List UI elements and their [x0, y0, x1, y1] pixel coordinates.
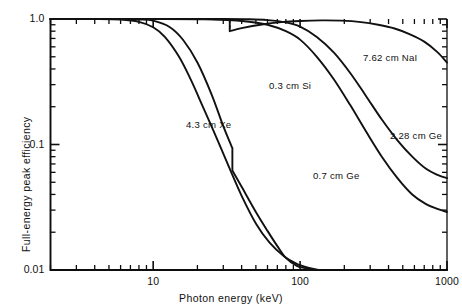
- y-axis-title: Full-energy peak efficiency: [20, 116, 32, 252]
- y-tick-label-0.01: 0.01: [0, 263, 45, 275]
- figure-container: 1.0 0.1 0.01 10 100 1000 Photon energy (…: [0, 0, 462, 308]
- series-label-nai: 7.62 cm NaI: [363, 52, 417, 63]
- series-label-ge-228: 2.28 cm Ge: [390, 130, 442, 141]
- x-tick-label-1000: 1000: [407, 275, 462, 287]
- series-label-si: 0.3 cm Si: [269, 80, 311, 91]
- curve-0-3-cm-si: [51, 19, 320, 270]
- curve-0-7-cm-ge: [51, 19, 448, 212]
- curve-2-28-cm-ge: [51, 19, 448, 178]
- x-axis-title: Photon energy (keV): [0, 292, 462, 304]
- chart-canvas: [0, 0, 462, 308]
- curve-4-3-cm-xe: [51, 19, 315, 270]
- y-tick-label-1.0: 1.0: [0, 12, 45, 24]
- series-label-xe: 4.3 cm Xe: [186, 119, 231, 130]
- x-tick-label-10: 10: [113, 275, 193, 287]
- series-label-ge-07: 0.7 cm Ge: [313, 170, 360, 181]
- x-tick-label-100: 100: [260, 275, 340, 287]
